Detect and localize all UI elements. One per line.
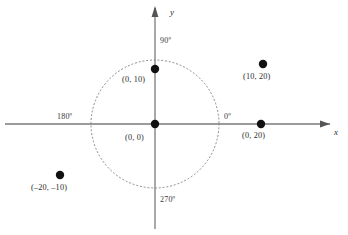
point-0-20-dot <box>257 120 265 128</box>
point-0-20-label: (0, 20) <box>242 132 265 140</box>
angle-label-90: 90º <box>160 37 171 45</box>
x-axis-label: x <box>334 128 338 137</box>
coordinate-diagram-figure: y x 0º 90º 180º 270º (0, 0) (0, 10) (10,… <box>0 0 348 235</box>
angle-label-270: 270º <box>160 196 175 204</box>
point-neg20-neg10-label: (–20, –10) <box>31 184 67 192</box>
point-0-10-dot <box>151 65 159 73</box>
point-0-10-label: (0, 10) <box>122 76 145 84</box>
x-axis-arrowhead <box>320 121 330 128</box>
point-10-20-dot <box>259 60 267 68</box>
point-origin-label: (0, 0) <box>125 134 144 142</box>
point-10-20-label: (10, 20) <box>243 73 271 81</box>
y-axis-label: y <box>170 8 174 17</box>
point-origin-dot <box>151 120 159 128</box>
angle-label-0: 0º <box>224 113 231 121</box>
angle-label-180: 180º <box>57 113 72 121</box>
y-axis-arrowhead <box>152 6 159 17</box>
point-neg20-neg10-dot <box>56 171 64 179</box>
